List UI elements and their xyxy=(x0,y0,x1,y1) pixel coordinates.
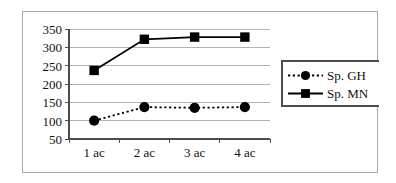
data-point-marker-square xyxy=(89,66,98,75)
x-tick-label: 2 ac xyxy=(134,145,156,160)
chart-legend[interactable]: Sp. GH Sp. MN xyxy=(282,61,379,106)
x-tick-label: 4 ac xyxy=(234,145,256,160)
line-chart[interactable]: 350 300 250 200 150 100 50 xyxy=(23,12,379,174)
y-tick-label: 100 xyxy=(43,114,63,129)
x-tick-label: 1 ac xyxy=(83,145,105,160)
y-tick-label: 50 xyxy=(49,132,62,147)
legend-marker-circle-icon xyxy=(301,71,310,80)
legend-label-sp-mn: Sp. MN xyxy=(327,86,369,101)
data-point-marker-circle xyxy=(240,102,250,112)
data-point-marker-square xyxy=(190,32,199,41)
legend-marker-square-icon xyxy=(301,89,310,98)
y-tick-label: 200 xyxy=(43,77,63,92)
x-axis-ticks xyxy=(69,139,270,143)
data-point-marker-square xyxy=(140,35,149,44)
data-point-marker-square xyxy=(240,32,249,41)
x-tick-label: 3 ac xyxy=(184,145,206,160)
data-point-marker-circle xyxy=(139,102,149,112)
data-point-marker-circle xyxy=(190,103,200,113)
x-axis-tick-labels: 1 ac 2 ac 3 ac 4 ac xyxy=(83,145,255,160)
data-point-marker-circle xyxy=(89,116,99,126)
y-axis-tick-labels: 350 300 250 200 150 100 50 xyxy=(43,22,63,147)
y-tick-label: 350 xyxy=(43,22,63,37)
legend-label-sp-gh: Sp. GH xyxy=(327,68,366,83)
chart-figure: 350 300 250 200 150 100 50 xyxy=(23,12,379,174)
y-tick-label: 150 xyxy=(43,95,63,110)
screenshot-root: 350 300 250 200 150 100 50 xyxy=(0,0,396,183)
chart-window-frame: 350 300 250 200 150 100 50 xyxy=(22,11,378,173)
y-tick-label: 250 xyxy=(43,59,63,74)
y-tick-label: 300 xyxy=(43,40,63,55)
